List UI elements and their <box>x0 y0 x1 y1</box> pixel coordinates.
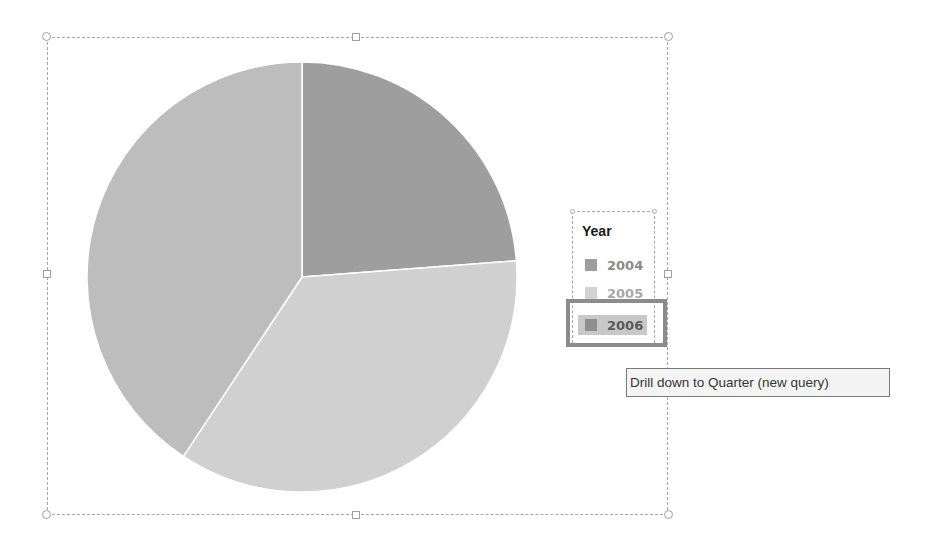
legend-label: 2006 <box>607 318 643 333</box>
legend-item-2005[interactable]: 2005 <box>582 283 643 303</box>
drill-down-tooltip: Drill down to Quarter (new query) <box>626 368 890 397</box>
pie-chart <box>0 0 934 543</box>
pie-slice-2004[interactable] <box>302 62 516 277</box>
pie-slices <box>87 62 517 492</box>
legend-label: 2005 <box>607 286 643 301</box>
legend-title: Year <box>582 223 612 239</box>
legend-item-2004[interactable]: 2004 <box>582 255 643 275</box>
legend-handle-top-left[interactable] <box>570 209 575 214</box>
legend-item-2006[interactable]: 2006 <box>578 315 647 335</box>
legend-handle-top-right[interactable] <box>652 209 657 214</box>
legend-label: 2004 <box>607 258 643 273</box>
legend-swatch-2006 <box>585 319 597 331</box>
legend-swatch-2004 <box>585 259 597 271</box>
legend-swatch-2005 <box>585 287 597 299</box>
